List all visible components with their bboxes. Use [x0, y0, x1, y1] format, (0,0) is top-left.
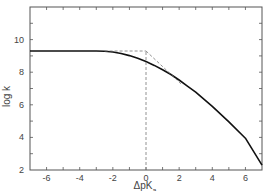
- x-tick-label: 2: [177, 173, 182, 183]
- x-tick-label: -6: [43, 173, 51, 183]
- x-tick-label: 4: [210, 173, 215, 183]
- axis-labels: -6-4-20246246810ΔpKalog k: [1, 35, 248, 191]
- series-group: [30, 51, 262, 170]
- y-tick-label: 4: [19, 132, 24, 142]
- y-tick-label: 6: [19, 100, 24, 110]
- chart: -6-4-20246246810ΔpKalog k: [0, 0, 265, 191]
- x-tick-label: -2: [109, 173, 117, 183]
- y-tick-label: 10: [14, 35, 24, 45]
- x-tick-label: -4: [76, 173, 84, 183]
- dashed-line: [146, 51, 183, 85]
- x-axis-label: ΔpKa: [134, 180, 157, 191]
- x-tick-label: 6: [243, 173, 248, 183]
- y-axis-label: log k: [1, 85, 12, 107]
- y-tick-label: 8: [19, 67, 24, 77]
- y-tick-label: 2: [19, 165, 24, 175]
